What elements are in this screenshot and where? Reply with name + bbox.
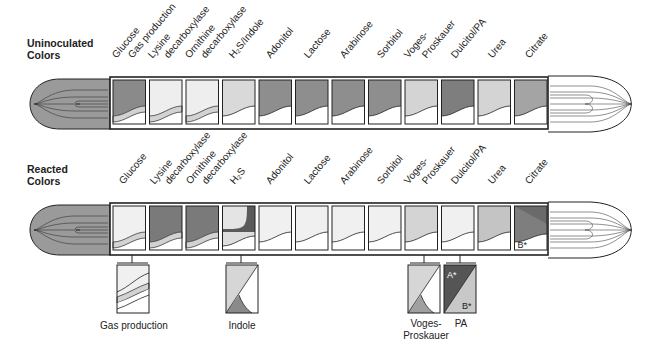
compartment-voges-proskauer <box>405 80 438 124</box>
compartment-lysine-decarboxylase <box>150 206 183 250</box>
compartment-citrate: B*A* <box>515 206 548 250</box>
tube-right-cap <box>548 202 632 258</box>
gas-production-label: Gas production <box>92 320 176 332</box>
pa-a-marker: A* <box>447 270 457 280</box>
enterotube-diagram: B*A*A*B* <box>0 0 658 354</box>
indole-box <box>226 265 258 313</box>
compartment-glucose <box>113 80 146 124</box>
tube-left-cap <box>30 79 110 129</box>
compartment-h2s-indole <box>223 206 256 250</box>
compartment-dulcitol-pa <box>442 206 475 250</box>
compartment-sorbitol <box>369 80 402 124</box>
compartment-arabinose <box>332 80 365 124</box>
reacted-tube: B*A* <box>110 203 548 255</box>
compartment-lactose <box>296 80 329 124</box>
gas-production-box <box>117 265 149 313</box>
compartment-lysine-decarboxylase <box>150 80 183 124</box>
compartment-adonitol <box>259 206 292 250</box>
citrate-a-marker: A* <box>532 237 542 247</box>
pa-b-marker: B* <box>462 301 472 311</box>
voges-proskauer-label: Voges- Proskauer <box>396 318 456 342</box>
compartment-dulcitol-pa <box>442 80 475 124</box>
compartment-urea <box>478 206 511 250</box>
compartment-adonitol <box>259 80 292 124</box>
compartment-ornithine-decarboxylase <box>186 80 219 124</box>
compartment-voges-proskauer <box>405 206 438 250</box>
pa-label: PA <box>449 318 473 330</box>
uninoculated-tube <box>110 77 548 129</box>
compartment-glucose <box>113 206 146 250</box>
voges-proskauer-box <box>408 265 440 313</box>
compartment-urea <box>478 80 511 124</box>
compartment-citrate <box>515 80 548 124</box>
vp-label-line2: Proskauer <box>396 330 456 342</box>
citrate-b-marker: B* <box>518 240 528 250</box>
compartment-sorbitol <box>369 206 402 250</box>
indole-label: Indole <box>218 320 266 332</box>
compartment-ornithine-decarboxylase <box>186 206 219 250</box>
vp-label-line1: Voges- <box>396 318 456 330</box>
compartment-lactose <box>296 206 329 250</box>
tube-right-cap <box>548 76 632 132</box>
tube-left-cap <box>30 205 110 255</box>
compartment-arabinose <box>332 206 365 250</box>
pa-box: A*B* <box>444 265 476 313</box>
compartment-h2s-indole <box>223 80 256 124</box>
